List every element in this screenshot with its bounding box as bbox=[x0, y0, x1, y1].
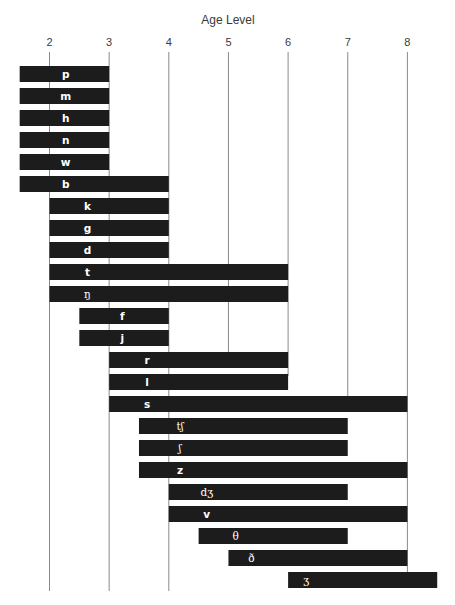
bar-row: t bbox=[50, 264, 289, 280]
phoneme-label: ʒ bbox=[303, 574, 309, 586]
age-range-bar bbox=[169, 484, 348, 500]
age-range-bar bbox=[50, 198, 169, 214]
x-tick-label: 7 bbox=[345, 36, 351, 48]
phoneme-label: d bbox=[84, 244, 92, 256]
phoneme-label: tʃ bbox=[176, 420, 184, 432]
bar-row: f bbox=[79, 308, 168, 324]
phoneme-label: h bbox=[62, 112, 69, 124]
phoneme-label: v bbox=[203, 508, 210, 520]
x-tick-label: 4 bbox=[166, 36, 172, 48]
age-range-bar bbox=[139, 440, 348, 456]
age-range-bar bbox=[109, 352, 288, 368]
phoneme-label: n bbox=[62, 134, 69, 146]
phoneme-label: p bbox=[62, 68, 70, 80]
phoneme-label: z bbox=[177, 464, 183, 476]
bar-row: b bbox=[20, 176, 169, 192]
x-tick-label: 8 bbox=[404, 36, 410, 48]
x-tick-label: 5 bbox=[225, 36, 231, 48]
phoneme-label: s bbox=[144, 398, 150, 410]
age-range-bar bbox=[139, 418, 348, 434]
bar-row: dʒ bbox=[169, 484, 348, 500]
age-range-bar bbox=[199, 528, 348, 544]
bar-row: w bbox=[20, 154, 109, 170]
bar-row: j bbox=[79, 330, 168, 346]
phoneme-label: w bbox=[61, 156, 71, 168]
bar-row: m bbox=[20, 88, 109, 104]
age-range-bar bbox=[109, 374, 288, 390]
phoneme-label: m bbox=[60, 90, 71, 102]
phoneme-label: k bbox=[84, 200, 92, 212]
x-tick-label: 6 bbox=[285, 36, 291, 48]
bar-row: l bbox=[109, 374, 288, 390]
bar-row: ŋ bbox=[50, 286, 289, 302]
bar-row: p bbox=[20, 66, 109, 82]
phoneme-label: ð bbox=[248, 552, 254, 564]
phoneme-label: t bbox=[85, 266, 90, 278]
phoneme-label: b bbox=[62, 178, 70, 190]
bar-row: ð bbox=[228, 550, 407, 566]
x-axis-ticks: 2345678 bbox=[46, 36, 410, 48]
phoneme-label: g bbox=[84, 222, 92, 234]
phoneme-label: l bbox=[145, 376, 149, 388]
phoneme-label: dʒ bbox=[200, 486, 213, 498]
bar-row: k bbox=[50, 198, 169, 214]
bar-row: s bbox=[109, 396, 407, 412]
phoneme-label: ŋ bbox=[84, 288, 91, 300]
bar-row: h bbox=[20, 110, 109, 126]
x-tick-label: 3 bbox=[106, 36, 112, 48]
bar-row: ʒ bbox=[288, 572, 437, 588]
age-range-bar bbox=[288, 572, 437, 588]
phoneme-label: f bbox=[120, 310, 125, 322]
age-range-bar bbox=[50, 220, 169, 236]
bar-row: θ bbox=[199, 528, 348, 544]
chart-title: Age Level bbox=[201, 13, 254, 27]
bar-row: v bbox=[169, 506, 408, 522]
phoneme-label: j bbox=[120, 332, 125, 344]
x-tick-label: 2 bbox=[46, 36, 52, 48]
age-range-bar bbox=[109, 396, 407, 412]
age-range-bar bbox=[228, 550, 407, 566]
bar-row: r bbox=[109, 352, 288, 368]
age-level-chart: Age Level 2345678 pmhnwbkgdtŋfjrlstʃʃzdʒ… bbox=[0, 0, 455, 605]
bar-row: ʃ bbox=[139, 440, 348, 456]
phoneme-label: r bbox=[145, 354, 151, 366]
age-range-bar bbox=[20, 176, 169, 192]
bar-row: d bbox=[50, 242, 169, 258]
phoneme-label: θ bbox=[232, 530, 238, 542]
bar-row: n bbox=[20, 132, 109, 148]
bar-row: z bbox=[139, 462, 407, 478]
age-range-bar bbox=[50, 242, 169, 258]
bar-row: tʃ bbox=[139, 418, 348, 434]
bar-row: g bbox=[50, 220, 169, 236]
